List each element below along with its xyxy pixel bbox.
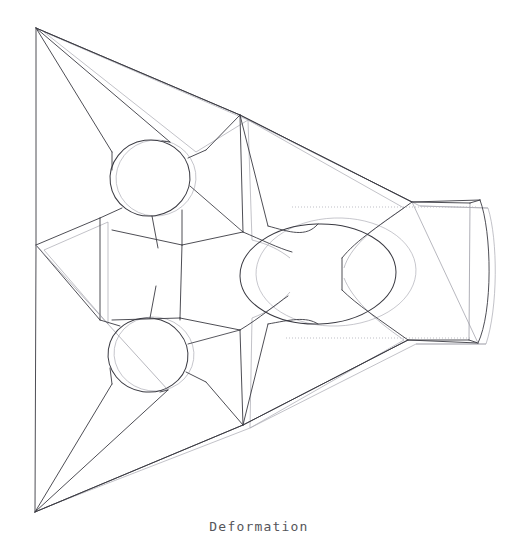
central-hole-spoke-nw bbox=[243, 232, 292, 252]
central-hole-tail-upper bbox=[268, 224, 318, 233]
right-inner-vertical bbox=[469, 203, 470, 340]
fan-topleft-3 bbox=[36, 28, 240, 115]
fan-bottomleft-1 bbox=[35, 384, 112, 512]
upper-hole-spoke-e bbox=[190, 186, 243, 232]
lower-hole-spoke-nw bbox=[100, 320, 120, 326]
central-quad-right bbox=[182, 232, 243, 245]
deformed-mesh-group bbox=[35, 28, 489, 512]
deformation-figure: Deformation bbox=[0, 0, 518, 540]
fan-bottomleft-2 bbox=[35, 390, 168, 512]
undeformed-diag-5 bbox=[250, 340, 404, 428]
outer-edge-right-curve bbox=[478, 200, 489, 343]
left-band-lower-edge bbox=[36, 245, 100, 320]
lower-hole-spoke-n bbox=[150, 286, 156, 318]
upper-hole-spoke-s bbox=[152, 216, 158, 248]
central-large-hole bbox=[238, 221, 397, 326]
outer-edge-top bbox=[36, 28, 480, 202]
undeformed-diag-6 bbox=[250, 318, 252, 428]
deformation-plot-canvas bbox=[0, 0, 518, 540]
fan-uppermid-4 bbox=[240, 115, 412, 202]
central-large-hole-undeformed bbox=[254, 215, 418, 329]
fan-lowermid-1 bbox=[206, 382, 243, 425]
upper-left-hole bbox=[105, 135, 195, 221]
fan-lowermid-3 bbox=[243, 324, 268, 425]
fan-uppermid-2 bbox=[240, 115, 243, 232]
fan-lowermid-4 bbox=[243, 340, 408, 425]
undeformed-diag-1 bbox=[44, 32, 196, 152]
undeformed-diag-4 bbox=[248, 120, 404, 208]
undeformed-mesh-group bbox=[44, 32, 495, 508]
undeformed-left-1 bbox=[44, 222, 108, 250]
outer-edge-left bbox=[35, 28, 36, 512]
fan-uppermid-3 bbox=[240, 115, 268, 226]
upper-hole-spoke-sw bbox=[100, 208, 122, 218]
fan-lowermid-2 bbox=[240, 330, 243, 425]
fan-topleft-1 bbox=[36, 28, 112, 152]
central-quad-bottom-right bbox=[180, 318, 240, 330]
outer-edge-bottom bbox=[35, 340, 478, 512]
central-quad-vertical-left bbox=[180, 245, 182, 318]
right-end-top-connector bbox=[412, 202, 470, 203]
fan-bottomleft-3 bbox=[35, 425, 243, 512]
fan-topleft-2 bbox=[36, 28, 170, 142]
central-hole-spoke-se bbox=[342, 290, 408, 340]
figure-caption: Deformation bbox=[0, 519, 518, 534]
lower-hole-spoke-se bbox=[186, 372, 206, 382]
central-hole-spoke-ne bbox=[342, 202, 412, 258]
undeformed-diag-3 bbox=[248, 120, 252, 240]
right-panel-diag bbox=[412, 202, 478, 343]
central-quad-left bbox=[112, 230, 182, 245]
left-band-upper-edge bbox=[36, 218, 100, 245]
fan-uppermid-1 bbox=[206, 115, 240, 150]
undeformed-left-2 bbox=[44, 250, 108, 324]
lower-hole-spoke-e bbox=[188, 330, 240, 344]
undeformed-right-edge bbox=[486, 208, 495, 344]
